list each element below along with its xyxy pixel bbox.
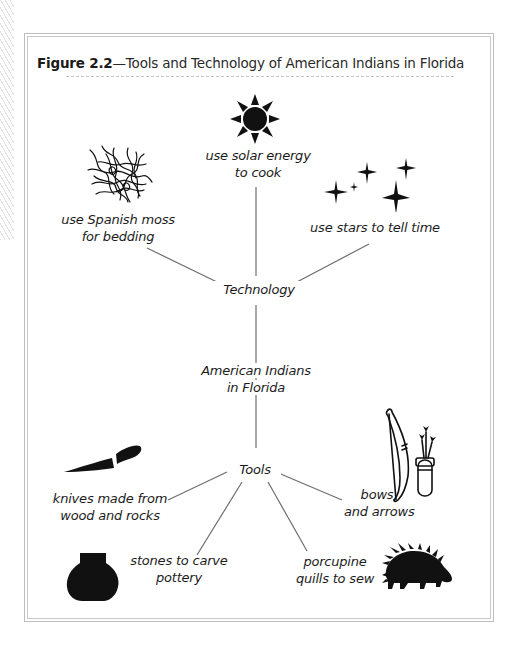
knife-icon [62, 444, 142, 474]
stars-icon [322, 156, 434, 212]
solar-energy-line1: use solar energy [196, 147, 320, 164]
knives-line2: wood and rocks [50, 507, 170, 524]
pot-icon [66, 551, 120, 603]
tools-node: Tools [229, 461, 281, 478]
bows-line1: bows [344, 486, 410, 503]
connector-moss-technology [147, 248, 219, 283]
sun-icon [230, 92, 280, 146]
center-node: American Indians in Florida [190, 362, 322, 396]
stars-label: use stars to tell time [300, 219, 450, 236]
pottery-line2: pottery [128, 569, 230, 586]
solar-energy-line2: to cook [196, 164, 320, 181]
porcupine-line2: quills to sew [290, 570, 380, 587]
bows-label: bows and arrows [344, 486, 410, 520]
pottery-label: stones to carve pottery [128, 552, 230, 586]
connector-tools-pottery [197, 482, 242, 555]
connector-tools-bows [276, 472, 342, 500]
solar-energy-label: use solar energy to cook [196, 147, 320, 181]
spanish-moss-line2: for bedding [54, 228, 182, 245]
porcupine-label: porcupine quills to sew [290, 553, 380, 587]
pottery-line1: stones to carve [128, 552, 230, 569]
knives-label: knives made from wood and rocks [50, 490, 170, 524]
bows-line2: and arrows [344, 503, 410, 520]
knives-line1: knives made from [50, 490, 170, 507]
connector-tools-porcupine [268, 482, 307, 551]
spanish-moss-label: use Spanish moss for bedding [54, 211, 182, 245]
connector-tools-knives [168, 472, 227, 500]
connector-stars-technology [295, 244, 369, 283]
porcupine-icon [382, 543, 454, 595]
spanish-moss-line1: use Spanish moss [54, 211, 182, 228]
stars-line1: use stars to tell time [300, 219, 450, 236]
spanish-moss-icon [84, 144, 154, 206]
porcupine-line1: porcupine [290, 553, 380, 570]
center-node-line1: American Indians [198, 363, 314, 378]
center-node-line2: in Florida [224, 380, 288, 395]
technology-node: Technology [214, 281, 304, 298]
